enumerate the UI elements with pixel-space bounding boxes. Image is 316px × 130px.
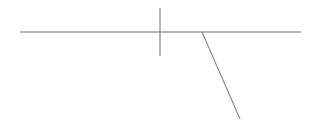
line-diagram — [0, 0, 316, 130]
diagonal-line — [202, 32, 240, 119]
